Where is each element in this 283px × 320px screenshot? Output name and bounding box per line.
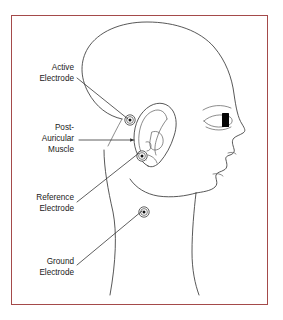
hairline (108, 119, 122, 146)
electrode-active-center-dot (129, 119, 132, 122)
neck-back (104, 150, 115, 295)
leader-arrowhead-post-auricular-muscle (130, 138, 134, 141)
label-layer: Active Electrode Post- Auricular Muscle … (36, 63, 74, 277)
label-ground-electrode-line1: Ground (47, 257, 75, 266)
lips (213, 174, 223, 176)
neck-front (192, 193, 199, 295)
electrode-active (125, 115, 135, 125)
hairline-group (108, 119, 122, 146)
skull-outline-group (82, 22, 245, 193)
electrode-reference-center-dot (141, 155, 144, 158)
leader-line-active-electrode (77, 78, 128, 119)
leader-line-reference-electrode (77, 153, 139, 202)
label-post-auricular-muscle-line1: Post- (55, 123, 74, 132)
label-reference-electrode-line1: Reference (36, 193, 74, 202)
jawline (130, 179, 196, 197)
label-post-auricular-muscle-line2: Auricular (42, 134, 75, 143)
leader-line-ground-electrode (77, 211, 142, 265)
label-active-electrode: Active Electrode (39, 63, 74, 83)
label-ground-electrode-line2: Electrode (39, 268, 74, 277)
eye-lower-lid (206, 127, 231, 130)
label-reference-electrode: Reference Electrode (36, 193, 74, 213)
label-post-auricular-muscle: Post- Auricular Muscle (42, 123, 75, 154)
electrode-reference (137, 151, 147, 161)
ear-lobe (148, 155, 157, 163)
label-active-electrode-line1: Active (52, 63, 75, 72)
label-post-auricular-muscle-line3: Muscle (48, 145, 74, 154)
label-reference-electrode-line2: Electrode (39, 204, 74, 213)
eye-pupil (222, 113, 229, 127)
leader-line-layer (77, 78, 142, 265)
skull-outline (82, 22, 245, 193)
figure-root: Active Electrode Post- Auricular Muscle … (0, 0, 283, 320)
label-ground-electrode: Ground Electrode (39, 257, 74, 277)
label-active-electrode-line2: Electrode (39, 74, 74, 83)
eyebrow (203, 106, 231, 110)
electrode-layer (125, 115, 149, 217)
eye-group (203, 106, 232, 130)
head-diagram: Active Electrode Post- Auricular Muscle … (0, 0, 283, 320)
electrode-ground-center-dot (143, 211, 146, 214)
neck-group (104, 150, 199, 295)
